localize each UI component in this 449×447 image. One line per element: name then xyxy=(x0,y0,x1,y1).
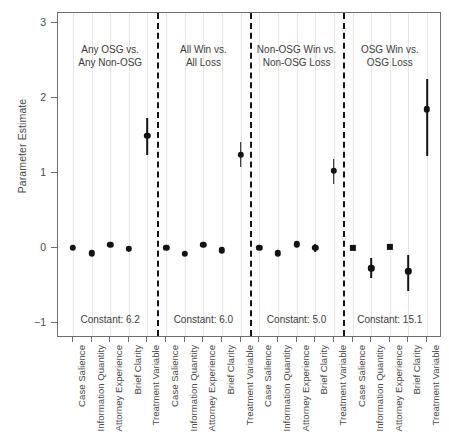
x-axis-tick-mark xyxy=(333,337,334,342)
x-axis-tick-mark xyxy=(109,337,110,342)
coefficient-plot-figure: Parameter Estimate 3210−1 Any OSG vs. An… xyxy=(0,0,449,447)
estimate-marker xyxy=(256,245,262,251)
x-axis-tick-label: Attorney Experience xyxy=(206,345,217,431)
estimate-marker xyxy=(88,250,94,256)
y-axis-tick-label: 3 xyxy=(20,22,46,23)
y-axis-tick-label: 2 xyxy=(20,97,46,98)
estimate-marker xyxy=(219,247,225,253)
x-axis-tick-label: Attorney Experience xyxy=(393,345,404,431)
x-axis-tick-mark xyxy=(184,337,185,342)
estimate-marker xyxy=(70,245,76,251)
estimate-marker xyxy=(293,241,299,247)
x-axis-tick-label: Brief Clarity xyxy=(225,345,236,395)
x-axis-tick-label: Treatment Variable xyxy=(337,345,348,426)
x-axis-tick-mark xyxy=(389,337,390,342)
estimate-marker xyxy=(275,250,281,256)
x-axis-tick-mark xyxy=(72,337,73,342)
x-axis-tick-mark xyxy=(240,337,241,342)
estimate-marker xyxy=(126,246,132,252)
x-axis-tick-mark xyxy=(426,337,427,342)
estimate-marker xyxy=(405,268,411,274)
x-axis-tick-mark xyxy=(91,337,92,342)
estimate-marker xyxy=(312,245,318,251)
x-axis-tick-mark xyxy=(258,337,259,342)
estimate-marker xyxy=(424,106,430,112)
x-axis-tick-label: Attorney Experience xyxy=(300,345,311,431)
panel-title: OSG Win vs. OSG Loss xyxy=(330,44,441,69)
x-axis-tick-mark xyxy=(370,337,371,342)
x-axis-tick-label: Brief Clarity xyxy=(411,345,422,395)
x-axis-tick-label: Information Quantity xyxy=(281,345,292,431)
x-axis-tick-mark xyxy=(165,337,166,342)
confidence-interval-whisker xyxy=(426,79,428,156)
estimate-marker xyxy=(349,245,355,251)
x-axis-tick-label: Case Salience xyxy=(356,345,367,407)
x-axis-tick-label: Treatment Variable xyxy=(150,345,161,426)
x-axis-tick-mark xyxy=(314,337,315,342)
estimate-marker xyxy=(387,244,393,250)
x-axis-tick-mark xyxy=(202,337,203,342)
x-axis-tick-label: Treatment Variable xyxy=(244,345,255,426)
panel-constant-label: Constant: 15.1 xyxy=(330,314,441,325)
x-axis-tick-label: Information Quantity xyxy=(374,345,385,431)
estimate-marker xyxy=(163,245,169,251)
x-axis-tick-mark xyxy=(128,337,129,342)
x-axis-tick-label: Information Quantity xyxy=(95,345,106,431)
x-axis-tick-mark xyxy=(352,337,353,342)
estimate-marker xyxy=(107,242,113,248)
x-axis-tick-label: Case Salience xyxy=(169,345,180,407)
estimate-marker xyxy=(144,132,150,138)
estimate-marker xyxy=(200,242,206,248)
x-axis-tick-mark xyxy=(221,337,222,342)
plot-area: Any OSG vs. Any Non-OSGConstant: 6.2All … xyxy=(57,12,441,337)
x-axis-tick-label: Attorney Experience xyxy=(113,345,124,431)
x-axis-tick-mark xyxy=(277,337,278,342)
x-axis-tick-label: Brief Clarity xyxy=(132,345,143,395)
estimate-marker xyxy=(368,265,374,271)
x-axis-tick-label: Brief Clarity xyxy=(318,345,329,395)
estimate-marker xyxy=(331,168,337,174)
estimate-marker xyxy=(182,251,188,257)
x-axis-tick-mark xyxy=(146,337,147,342)
y-axis-tick-label: −1 xyxy=(20,322,46,323)
x-axis-tick-mark xyxy=(296,337,297,342)
x-axis-tick-label: Case Salience xyxy=(76,345,87,407)
x-axis-tick-label: Treatment Variable xyxy=(430,345,441,426)
estimate-marker xyxy=(237,152,243,158)
x-axis-tick-label: Case Salience xyxy=(262,345,273,407)
y-axis-tick-label: 0 xyxy=(20,247,46,248)
x-axis-tick-mark xyxy=(407,337,408,342)
x-axis-tick-label: Information Quantity xyxy=(188,345,199,431)
y-axis-tick-label: 1 xyxy=(20,172,46,173)
